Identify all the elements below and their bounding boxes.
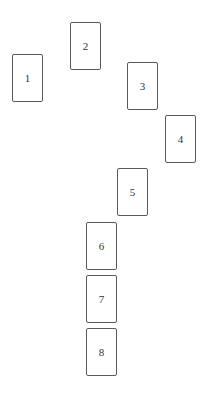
card-position-8: 8 xyxy=(86,328,117,376)
card-position-6: 6 xyxy=(86,222,117,270)
card-number-label: 3 xyxy=(140,81,146,92)
card-number-label: 1 xyxy=(25,73,31,84)
card-spread-diagram: 1 2 3 4 5 6 7 8 xyxy=(0,0,207,398)
card-number-label: 6 xyxy=(99,241,105,252)
card-number-label: 7 xyxy=(99,294,105,305)
card-position-3: 3 xyxy=(127,62,158,110)
card-position-7: 7 xyxy=(86,275,117,323)
card-number-label: 2 xyxy=(83,41,89,52)
card-position-2: 2 xyxy=(70,22,101,70)
card-number-label: 5 xyxy=(130,187,136,198)
card-position-4: 4 xyxy=(165,115,196,163)
card-position-5: 5 xyxy=(117,168,148,216)
card-position-1: 1 xyxy=(12,54,43,102)
card-number-label: 4 xyxy=(178,134,184,145)
card-number-label: 8 xyxy=(99,347,105,358)
